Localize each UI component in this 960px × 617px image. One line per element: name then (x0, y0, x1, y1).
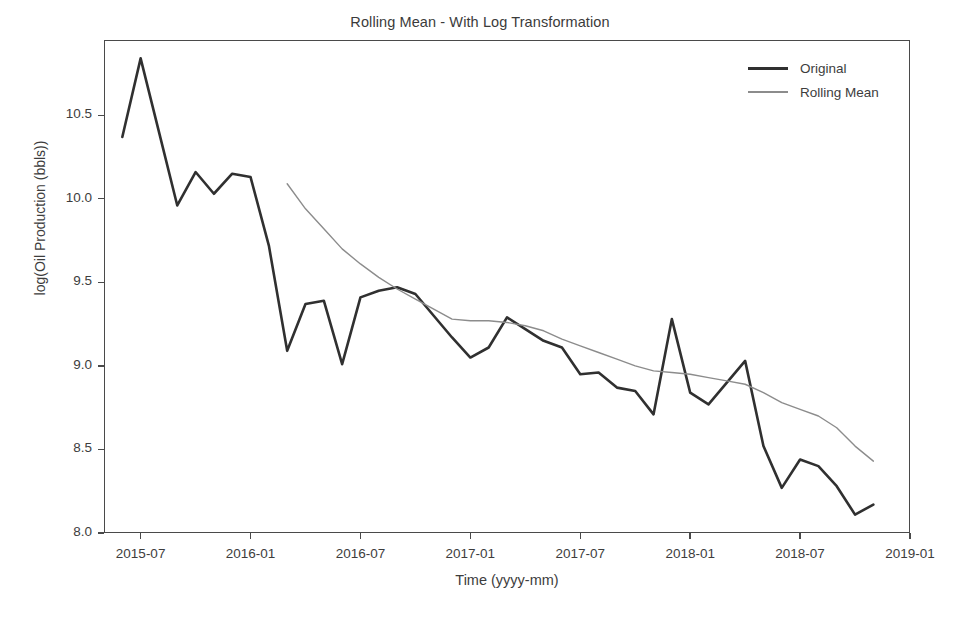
y-tick-label: 8.0 (32, 524, 92, 539)
x-axis-label: Time (yyyy-mm) (104, 572, 910, 588)
y-tick-label: 8.5 (32, 440, 92, 455)
x-tick-label: 2015-07 (81, 546, 201, 561)
y-tick-label: 9.5 (32, 273, 92, 288)
figure: Rolling Mean - With Log Transformation l… (0, 0, 960, 617)
x-tick-mark (360, 533, 361, 539)
x-tick-mark (250, 533, 251, 539)
x-tick-label: 2018-07 (740, 546, 860, 561)
series-line-original (122, 58, 873, 514)
x-tick-mark (580, 533, 581, 539)
legend-line-rolling-mean-icon (746, 85, 790, 99)
y-tick-label: 10.5 (32, 106, 92, 121)
y-tick-label: 10.0 (32, 190, 92, 205)
legend: Original Rolling Mean (746, 54, 906, 106)
chart-title: Rolling Mean - With Log Transformation (0, 14, 960, 30)
x-tick-label: 2016-07 (300, 546, 420, 561)
legend-line-original-icon (746, 61, 790, 75)
legend-label-original: Original (790, 61, 847, 76)
series-line-rolling-mean (287, 184, 873, 461)
y-tick-label: 9.0 (32, 357, 92, 372)
x-tick-label: 2017-07 (520, 546, 640, 561)
legend-item-rolling-mean[interactable]: Rolling Mean (746, 80, 906, 104)
x-tick-mark (470, 533, 471, 539)
legend-item-original[interactable]: Original (746, 56, 906, 80)
legend-label-rolling-mean: Rolling Mean (790, 85, 879, 100)
y-axis-label: log(Oil Production (bbls)) (32, 98, 48, 338)
x-tick-label: 2018-01 (630, 546, 750, 561)
x-tick-mark (689, 533, 690, 539)
plot-lines (104, 40, 910, 533)
x-tick-label: 2016-01 (191, 546, 311, 561)
x-tick-mark (799, 533, 800, 539)
x-tick-label: 2017-01 (410, 546, 530, 561)
x-tick-mark (140, 533, 141, 539)
x-tick-mark (909, 533, 910, 539)
x-tick-label: 2019-01 (850, 546, 960, 561)
